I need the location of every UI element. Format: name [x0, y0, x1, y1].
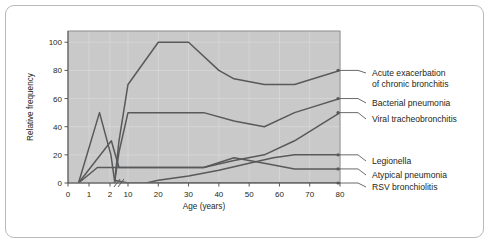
y-tick-label: 60 [53, 95, 62, 104]
chart-legend: Acute exacerbationof chronic bronchitisB… [336, 68, 456, 192]
x-axis-title: Age (years) [183, 202, 226, 211]
legend-label: RSV bronchiolitis [372, 182, 437, 192]
x-tick-label: 30 [184, 190, 193, 199]
chart-svg: 0121020304050607080 020406080100 Age (ye… [0, 0, 491, 245]
x-axis-ticks: 0121020304050607080 [66, 183, 345, 199]
legend-leader-line [338, 155, 366, 161]
x-tick-label: 60 [275, 190, 284, 199]
legend-label: Bacterial pneumonia [372, 98, 451, 108]
y-tick-label: 100 [49, 38, 63, 47]
legend-label-continued: of chronic bronchitis [372, 79, 448, 89]
chart-figure: 0121020304050607080 020406080100 Age (ye… [0, 0, 491, 245]
y-tick-label: 40 [53, 123, 62, 132]
legend-label: Atypical pneumonia [372, 170, 447, 180]
legend-leader-line [338, 183, 366, 187]
x-tick-label: 1 [87, 190, 92, 199]
legend-label: Acute exacerbation [372, 68, 446, 78]
x-tick-label: 2 [108, 190, 113, 199]
legend-label: Legionella [372, 156, 411, 166]
legend-leader-line [338, 169, 366, 175]
x-tick-label: 40 [214, 190, 223, 199]
plot-area-background [68, 31, 340, 183]
legend-label: Viral tracheobronchitis [372, 114, 457, 124]
y-tick-label: 0 [58, 179, 63, 188]
y-tick-label: 20 [53, 151, 62, 160]
legend-leader-line [338, 113, 366, 119]
x-tick-label: 70 [305, 190, 314, 199]
y-tick-label: 80 [53, 66, 62, 75]
x-tick-label: 0 [66, 190, 71, 199]
legend-leader-line [338, 99, 366, 103]
legend-leader-line [338, 70, 366, 73]
x-tick-label: 80 [336, 190, 345, 199]
x-tick-label: 10 [124, 190, 133, 199]
x-tick-label: 20 [154, 190, 163, 199]
y-axis-title: Relative frequency [26, 72, 35, 141]
x-tick-label: 50 [245, 190, 254, 199]
y-axis-ticks: 020406080100 [49, 38, 68, 188]
